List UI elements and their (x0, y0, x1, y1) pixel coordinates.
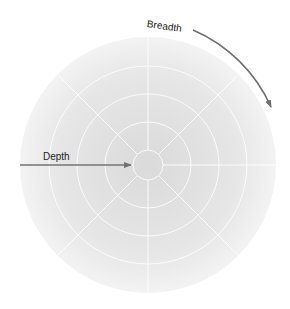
depth-label: Depth (43, 151, 70, 162)
